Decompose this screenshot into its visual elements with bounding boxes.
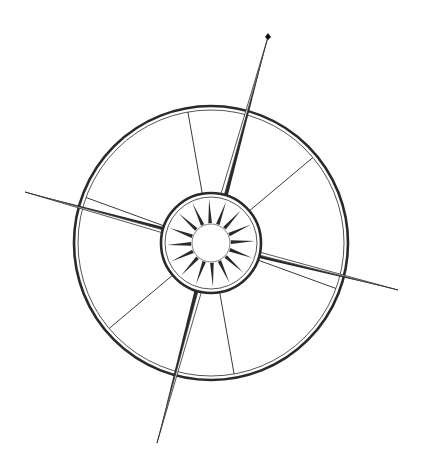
compass-rose [0, 0, 422, 461]
compass-rose-canvas [0, 0, 422, 461]
spoke-line [249, 158, 313, 211]
needle-east-light [259, 252, 398, 290]
needle-west-light [25, 192, 163, 233]
spoke-line [109, 275, 173, 328]
hub-center [192, 224, 230, 262]
spoke-line [188, 112, 202, 194]
spoke-line [220, 292, 234, 374]
north-marker-shape [265, 33, 271, 40]
north-marker-icon [265, 33, 271, 40]
